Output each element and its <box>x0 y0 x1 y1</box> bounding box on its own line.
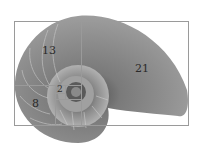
fibonacci-label-8: 8 <box>32 98 39 109</box>
nautilus-shell-illustration <box>0 0 198 150</box>
fibonacci-label-2: 2 <box>57 84 63 95</box>
fibonacci-label-13: 13 <box>42 45 56 56</box>
fibonacci-label-21: 21 <box>135 63 149 74</box>
nautilus-image: 13 21 8 2 <box>0 0 198 150</box>
